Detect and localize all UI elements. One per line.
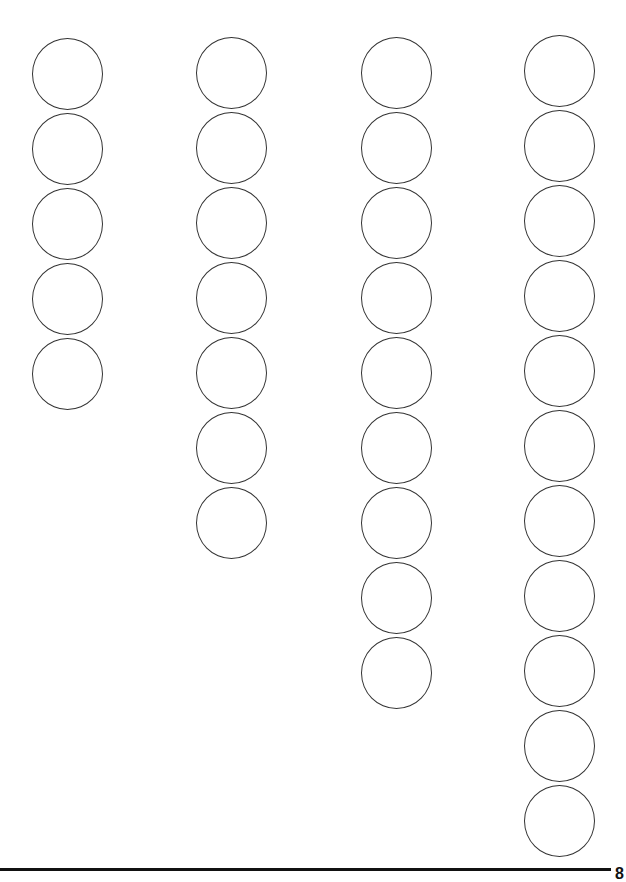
circle-icon	[361, 487, 432, 559]
circle-icon	[32, 38, 103, 110]
circle-icon	[524, 110, 595, 182]
circle-icon	[361, 112, 432, 184]
circle-icon	[361, 412, 432, 484]
circle-icon	[524, 560, 595, 632]
circle-icon	[524, 185, 595, 257]
circle-icon	[361, 187, 432, 259]
circle-icon	[32, 338, 103, 410]
circle-icon	[361, 337, 432, 409]
circle-icon	[524, 335, 595, 407]
footer-rule	[0, 868, 611, 871]
circle-icon	[361, 262, 432, 334]
circle-icon	[196, 412, 267, 484]
circle-icon	[196, 112, 267, 184]
circle-icon	[196, 37, 267, 109]
circle-icon	[196, 487, 267, 559]
circle-icon	[196, 262, 267, 334]
circle-icon	[361, 637, 432, 709]
circle-icon	[524, 35, 595, 107]
circle-icon	[32, 113, 103, 185]
circle-icon	[524, 710, 595, 782]
circle-icon	[32, 263, 103, 335]
circle-icon	[361, 37, 432, 109]
circle-icon	[524, 635, 595, 707]
circle-icon	[524, 785, 595, 857]
page-number: 8	[615, 866, 624, 882]
circle-icon	[196, 187, 267, 259]
circle-icon	[524, 260, 595, 332]
circle-icon	[524, 410, 595, 482]
circle-icon	[196, 337, 267, 409]
circle-icon	[524, 485, 595, 557]
circle-icon	[361, 562, 432, 634]
circle-icon	[32, 188, 103, 260]
